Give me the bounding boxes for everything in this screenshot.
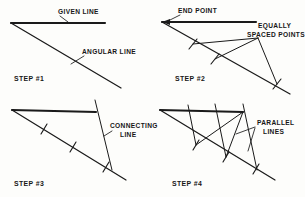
- label-connecting-line-2: LINE: [120, 131, 137, 138]
- step4-tick-2: [223, 152, 229, 162]
- step4-connector-ray-1: [196, 112, 243, 145]
- label-end-point: END POINT: [178, 7, 217, 14]
- step4-tick-1: [193, 140, 199, 150]
- step4-parallel-lines-leader-upper: [236, 127, 255, 134]
- panel-step1: GIVEN LINE ANGULAR LINE STEP #1: [11, 8, 136, 88]
- step4-given-line: [160, 110, 243, 112]
- step-label-1: STEP #1: [14, 75, 44, 82]
- figure-canvas: GIVEN LINE ANGULAR LINE STEP #1 END POIN…: [0, 0, 305, 197]
- step-label-3: STEP #3: [14, 180, 44, 187]
- panel-step2: END POINT EQUALLY SPACED POINTS STEP #2: [162, 7, 305, 94]
- step3-tick-2: [70, 142, 76, 152]
- step1-given-line-leader: [60, 16, 68, 22]
- step3-given-line: [12, 110, 96, 112]
- step-label-4: STEP #4: [172, 180, 202, 187]
- label-parallel-lines-2: LINES: [263, 128, 284, 135]
- step4-connector-ray-2: [226, 112, 243, 157]
- step4-parallel-line-3: [243, 104, 257, 170]
- label-parallel-lines-1: PARALLEL: [257, 119, 294, 126]
- label-connecting-line-1: CONNECTING: [110, 122, 158, 129]
- label-angular-line: ANGULAR LINE: [82, 48, 136, 55]
- label-equally-spaced-points-1: EQUALLY: [258, 22, 292, 30]
- step-label-2: STEP #2: [175, 75, 205, 82]
- step3-angular-line: [12, 110, 126, 180]
- step2-tick-3: [273, 79, 281, 89]
- step2-tick-2: [211, 54, 219, 64]
- construction-figure: GIVEN LINE ANGULAR LINE STEP #1 END POIN…: [0, 0, 305, 197]
- label-given-line: GIVEN LINE: [58, 8, 99, 15]
- panel-step3: CONNECTING LINE STEP #3: [12, 100, 158, 187]
- step3-connecting-line-leader: [104, 131, 112, 136]
- panel-step4: PARALLEL LINES STEP #4: [160, 104, 294, 187]
- step3-connecting-line: [95, 100, 112, 170]
- label-equally-spaced-points-2: SPACED POINTS: [247, 31, 305, 38]
